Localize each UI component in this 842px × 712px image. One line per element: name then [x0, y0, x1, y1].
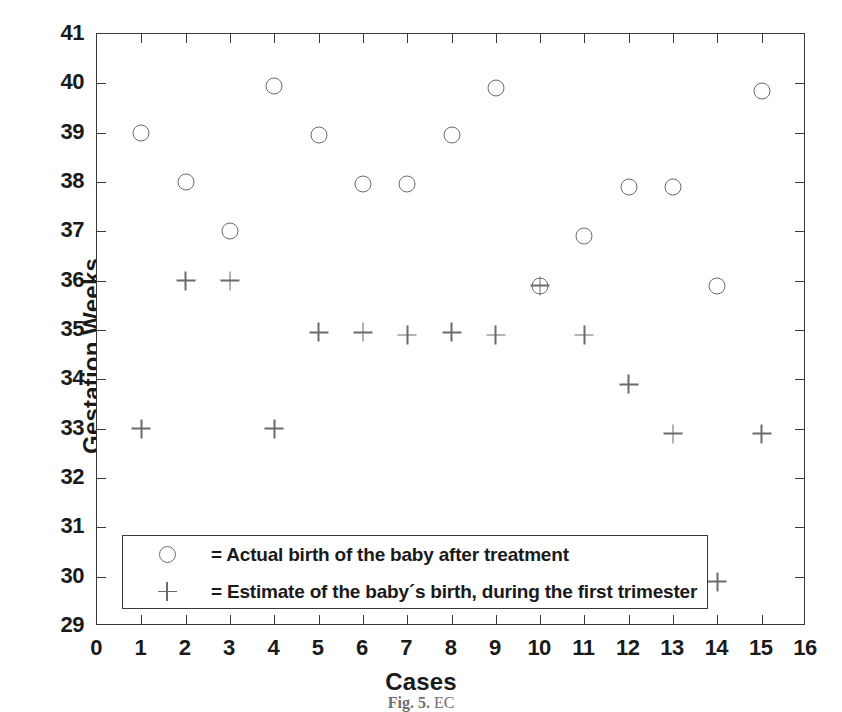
- y-tick: [97, 577, 106, 578]
- plus-marker-icon: [123, 573, 211, 610]
- x-tick-top: [230, 34, 231, 43]
- x-tick-top: [717, 34, 718, 43]
- y-tick-right: [795, 478, 804, 479]
- y-tick-label: 39: [30, 121, 84, 143]
- circle-data-point: [709, 277, 726, 294]
- plot-area: = Actual birth of the baby after treatme…: [96, 33, 805, 625]
- x-tick-top: [141, 34, 142, 43]
- plus-data-point: [575, 325, 594, 344]
- x-tick-label: 3: [209, 637, 249, 659]
- x-tick-top: [274, 34, 275, 43]
- y-tick-right: [795, 330, 804, 331]
- plus-data-point: [265, 419, 284, 438]
- legend-label-estimate: = Estimate of the baby´s birth, during t…: [211, 581, 697, 603]
- plus-data-point: [309, 323, 328, 342]
- y-tick-right: [795, 83, 804, 84]
- x-tick: [584, 615, 585, 624]
- plus-data-point: [398, 325, 417, 344]
- y-tick: [97, 281, 106, 282]
- plus-data-point: [176, 271, 195, 290]
- x-tick: [717, 615, 718, 624]
- x-tick: [230, 615, 231, 624]
- x-tick: [540, 615, 541, 624]
- x-axis-title: Cases: [0, 668, 842, 696]
- y-tick-right: [795, 577, 804, 578]
- x-tick: [141, 615, 142, 624]
- x-tick-label: 4: [253, 637, 293, 659]
- x-tick-label: 8: [431, 637, 471, 659]
- x-tick-label: 7: [386, 637, 426, 659]
- y-tick: [97, 527, 106, 528]
- circle-data-point: [443, 127, 460, 144]
- x-tick: [452, 615, 453, 624]
- x-tick-label: 12: [608, 637, 648, 659]
- x-tick: [629, 615, 630, 624]
- circle-data-point: [221, 223, 238, 240]
- legend-label-actual-birth: = Actual birth of the baby after treatme…: [211, 544, 569, 566]
- circle-data-point: [620, 178, 637, 195]
- x-tick-top: [452, 34, 453, 43]
- x-tick-label: 10: [519, 637, 559, 659]
- y-tick-label: 38: [30, 170, 84, 192]
- x-tick: [319, 615, 320, 624]
- circle-data-point: [399, 176, 416, 193]
- y-tick: [97, 182, 106, 183]
- x-tick-top: [319, 34, 320, 43]
- legend-entry-estimate: = Estimate of the baby´s birth, during t…: [123, 573, 707, 610]
- x-tick-label: 5: [298, 637, 338, 659]
- plus-data-point: [752, 424, 771, 443]
- plus-data-point: [220, 271, 239, 290]
- x-tick: [762, 615, 763, 624]
- plus-data-point: [531, 276, 550, 295]
- x-tick-top: [496, 34, 497, 43]
- x-tick-top: [629, 34, 630, 43]
- y-tick-label: 35: [30, 318, 84, 340]
- y-tick: [97, 83, 106, 84]
- x-tick-label: 13: [652, 637, 692, 659]
- x-tick-top: [363, 34, 364, 43]
- legend-entry-actual-birth: = Actual birth of the baby after treatme…: [123, 536, 707, 573]
- circle-data-point: [665, 178, 682, 195]
- circle-data-point: [487, 80, 504, 97]
- circle-data-point: [753, 82, 770, 99]
- x-tick-label: 9: [475, 637, 515, 659]
- y-tick-right: [795, 379, 804, 380]
- circle-data-point: [177, 174, 194, 191]
- caption-text: EC: [434, 694, 454, 711]
- figure-scatter-gestation-weeks: Gestation Weeks = Actual birth of the ba…: [0, 0, 842, 712]
- y-tick-label: 36: [30, 269, 84, 291]
- x-tick: [407, 615, 408, 624]
- plus-data-point: [486, 325, 505, 344]
- y-tick-right: [795, 182, 804, 183]
- x-tick-label: 15: [741, 637, 781, 659]
- x-tick: [496, 615, 497, 624]
- circle-data-point: [266, 77, 283, 94]
- x-tick-label: 16: [785, 637, 825, 659]
- plus-data-point: [442, 323, 461, 342]
- figure-caption: Fig. 5. EC: [0, 694, 842, 712]
- y-tick: [97, 231, 106, 232]
- x-tick-top: [673, 34, 674, 43]
- x-tick-label: 2: [165, 637, 205, 659]
- y-tick-right: [795, 281, 804, 282]
- x-tick-top: [762, 34, 763, 43]
- y-tick: [97, 330, 106, 331]
- plus-data-point: [664, 424, 683, 443]
- y-tick: [97, 379, 106, 380]
- x-tick-top: [186, 34, 187, 43]
- circle-data-point: [310, 127, 327, 144]
- y-tick-label: 30: [30, 565, 84, 587]
- x-tick-top: [540, 34, 541, 43]
- x-tick-label: 11: [563, 637, 603, 659]
- x-tick: [363, 615, 364, 624]
- chart-legend: = Actual birth of the baby after treatme…: [122, 535, 708, 609]
- x-tick-label: 0: [76, 637, 116, 659]
- x-tick: [673, 615, 674, 624]
- caption-figure-number: Fig. 5.: [388, 694, 430, 711]
- plus-data-point: [132, 419, 151, 438]
- x-tick-label: 6: [342, 637, 382, 659]
- y-tick-label: 33: [30, 417, 84, 439]
- x-tick-top: [584, 34, 585, 43]
- x-tick-top: [407, 34, 408, 43]
- circle-data-point: [576, 228, 593, 245]
